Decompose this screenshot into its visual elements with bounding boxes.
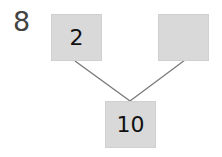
- part-box-right-blank[interactable]: [158, 14, 209, 61]
- part-box-left: 2: [51, 14, 102, 61]
- whole-box: 10: [105, 101, 156, 148]
- whole-value: 10: [117, 112, 145, 137]
- part-left-value: 2: [70, 25, 84, 50]
- right-connector: [130, 60, 185, 101]
- left-connector: [75, 61, 130, 101]
